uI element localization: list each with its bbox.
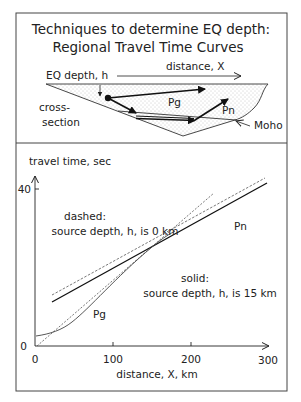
pg-curve-label: Pg	[93, 308, 106, 320]
y-axis-label: travel time, sec	[29, 155, 111, 167]
distance-label: distance, X	[166, 60, 224, 72]
title-line-1: Techniques to determine EQ depth:	[31, 21, 270, 37]
cross-section-diagram: EQ depth, h distance, X cross- section P…	[39, 60, 283, 136]
pn-curve-label: Pn	[234, 220, 247, 232]
cross-section-label-2: section	[42, 116, 80, 128]
x-tick-label-300: 300	[258, 354, 278, 366]
moho-label: Moho	[254, 119, 283, 131]
pn-ray-label: Pn	[222, 104, 235, 116]
y-tick-label-40: 40	[18, 183, 31, 195]
x-tick-label-200: 200	[181, 353, 201, 365]
eq-depth-label: EQ depth, h	[46, 69, 108, 81]
solid-legend-desc: source depth, h, is 15 km	[143, 287, 277, 299]
cross-section-label-1: cross-	[39, 101, 70, 113]
title-line-2: Regional Travel Time Curves	[52, 39, 243, 55]
x-tick-label-0: 0	[32, 353, 39, 365]
figure: Techniques to determine EQ depth: Region…	[0, 0, 301, 402]
dashed-legend-title: dashed:	[64, 210, 106, 222]
pg-ray-label: Pg	[168, 96, 181, 108]
travel-time-graph: travel time, sec 40 0 0 100 200 300 dist…	[18, 155, 278, 380]
y-tick-label-0: 0	[20, 340, 27, 352]
pg-solid-curve	[36, 231, 175, 336]
dashed-legend-desc: source depth, h, is 0 km	[52, 225, 179, 237]
x-tick-label-100: 100	[103, 353, 123, 365]
solid-legend-title: solid:	[181, 272, 209, 284]
x-axis-label: distance, X, km	[116, 368, 197, 380]
moho-pointer-icon	[236, 121, 250, 126]
pn-solid-line	[52, 183, 267, 302]
